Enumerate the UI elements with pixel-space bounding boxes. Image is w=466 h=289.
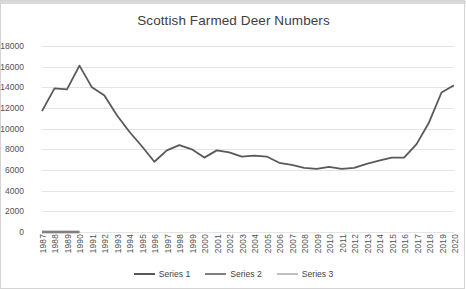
legend-item-series-3[interactable]: Series 3 xyxy=(277,269,334,279)
x-axis-tick-label: 1998 xyxy=(175,234,185,253)
x-axis-tick-label: 2007 xyxy=(288,234,298,253)
y-axis-tick-label: 2000 xyxy=(0,206,24,216)
y-axis-tick-label: 16000 xyxy=(0,62,24,72)
x-axis-tick-label: 2012 xyxy=(350,234,360,253)
legend-item-series-1[interactable]: Series 1 xyxy=(134,269,191,279)
legend-label: Series 2 xyxy=(230,269,262,279)
y-axis-tick-label: 6000 xyxy=(0,165,24,175)
y-axis-tick-label: 14000 xyxy=(0,82,24,92)
x-axis-tick-label: 2018 xyxy=(425,234,435,253)
gridline xyxy=(42,232,454,233)
x-axis-tick-label: 1999 xyxy=(188,234,198,253)
x-axis-tick-label: 2019 xyxy=(438,234,448,253)
x-axis-tick-label: 1994 xyxy=(125,234,135,253)
x-axis-tick-label: 2010 xyxy=(325,234,335,253)
x-axis-tick-label: 2013 xyxy=(363,234,373,253)
y-axis-labels: 1800016000140001200010000800060004000200… xyxy=(42,46,454,232)
legend-swatch-icon xyxy=(277,273,298,275)
x-axis-tick-label: 2001 xyxy=(213,234,223,253)
x-axis-tick-label: 1987 xyxy=(38,234,48,253)
y-axis-tick-label: 18000 xyxy=(0,41,24,51)
x-axis-tick-label: 2011 xyxy=(338,234,348,253)
x-axis-tick-label: 1992 xyxy=(100,234,110,253)
x-axis-tick-label: 1989 xyxy=(63,234,73,253)
x-axis-tick-label: 2000 xyxy=(200,234,210,253)
legend-label: Series 1 xyxy=(159,269,191,279)
x-axis-tick-label: 2008 xyxy=(300,234,310,253)
x-axis-tick-label: 1991 xyxy=(88,234,98,253)
x-axis-tick-label: 1996 xyxy=(150,234,160,253)
x-axis-tick-label: 2002 xyxy=(225,234,235,253)
x-axis-tick-label: 2005 xyxy=(263,234,273,253)
x-axis-tick-label: 2020 xyxy=(450,234,460,253)
x-axis-tick-label: 2015 xyxy=(388,234,398,253)
legend-swatch-icon xyxy=(205,273,226,275)
x-axis-tick-label: 2004 xyxy=(250,234,260,253)
top-strip xyxy=(1,1,466,4)
x-axis-tick-label: 1988 xyxy=(50,234,60,253)
x-axis-tick-label: 2006 xyxy=(275,234,285,253)
chart-legend: Series 1Series 2Series 3 xyxy=(1,269,466,279)
legend-swatch-icon xyxy=(134,273,155,275)
y-axis-tick-label: 12000 xyxy=(0,103,24,113)
x-axis-tick-label: 2009 xyxy=(313,234,323,253)
x-axis-tick-label: 2014 xyxy=(375,234,385,253)
x-axis-tick-label: 2017 xyxy=(413,234,423,253)
x-axis-tick-label: 1995 xyxy=(138,234,148,253)
x-axis-tick-label: 2003 xyxy=(238,234,248,253)
chart-title: Scottish Farmed Deer Numbers xyxy=(1,13,466,28)
x-axis-tick-label: 1997 xyxy=(163,234,173,253)
y-axis-tick-label: 8000 xyxy=(0,144,24,154)
legend-label: Series 3 xyxy=(302,269,334,279)
legend-item-series-2[interactable]: Series 2 xyxy=(205,269,262,279)
x-axis-tick-label: 2016 xyxy=(400,234,410,253)
x-axis-labels: 1987198819891990199119921993199419951996… xyxy=(42,234,454,274)
x-axis-tick-label: 1993 xyxy=(113,234,123,253)
y-axis-tick-label: 0 xyxy=(0,227,24,237)
y-axis-tick-label: 10000 xyxy=(0,124,24,134)
x-axis-tick-label: 1990 xyxy=(75,234,85,253)
y-axis-tick-label: 4000 xyxy=(0,186,24,196)
